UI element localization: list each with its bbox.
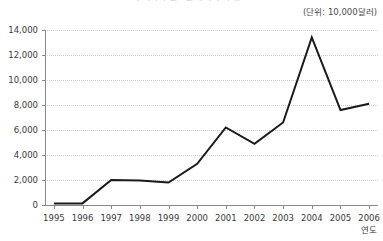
y-tick-label: 8,000 — [14, 100, 38, 110]
y-tick-label: 2,000 — [14, 175, 38, 185]
x-tick-label: 1998 — [129, 213, 151, 223]
x-tick-label: 1997 — [100, 213, 122, 223]
x-tick-label: 2003 — [272, 213, 294, 223]
y-tick-label: 0 — [33, 200, 38, 210]
y-tick-label: 4,000 — [14, 150, 38, 160]
x-tick-label: 1996 — [72, 213, 94, 223]
data-series-line — [54, 38, 369, 204]
x-axis-label: 연도 — [361, 225, 377, 235]
gridlines — [45, 31, 378, 181]
x-tick-label: 2002 — [244, 213, 266, 223]
y-tick-label: 12,000 — [8, 50, 38, 60]
x-tick-label: 2006 — [358, 213, 380, 223]
x-axis-ticks: 1995199619971998199920002001200220032004… — [43, 205, 380, 223]
x-tick-label: 2005 — [330, 213, 352, 223]
plot-area: 02,0004,0006,0008,00010,00012,00014,000 … — [0, 0, 383, 241]
y-axis-ticks: 02,0004,0006,0008,00010,00012,00014,000 — [8, 25, 45, 210]
y-tick-label: 14,000 — [8, 25, 38, 35]
x-tick-label: 2004 — [301, 213, 323, 223]
x-tick-label: 1999 — [158, 213, 180, 223]
x-tick-label: 2001 — [215, 213, 237, 223]
x-tick-label: 1995 — [43, 213, 65, 223]
y-tick-label: 6,000 — [14, 125, 38, 135]
y-tick-label: 10,000 — [8, 75, 38, 85]
x-tick-label: 2000 — [186, 213, 208, 223]
line-chart: 우리나라 연도별 해외 투자 규모 (단위: 10,000달러) 02,0004… — [0, 0, 383, 241]
